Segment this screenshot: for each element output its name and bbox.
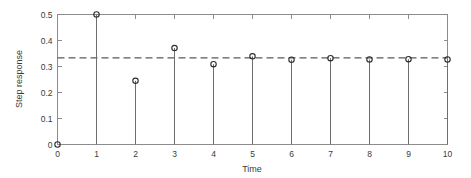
y-axis-title: Step response [14,50,24,108]
x-axis-title: Time [242,164,262,174]
x-tick-label: 10 [443,149,453,159]
x-tick-label: 9 [406,149,411,159]
x-tick-label: 7 [328,149,333,159]
y-tick-label: 0.5 [41,10,53,20]
y-tick-label: 0.3 [41,62,53,72]
x-tick-label: 6 [289,149,294,159]
x-tick-label: 8 [367,149,372,159]
chart-background [0,0,471,178]
y-tick-label: 0.2 [41,88,53,98]
x-tick-label: 1 [94,149,99,159]
x-tick-label: 3 [172,149,177,159]
y-tick-label: 0 [48,140,53,150]
chart-figure: 012345678910 00.10.20.30.40.5 Time Step … [0,0,471,178]
x-tick-label: 4 [211,149,216,159]
y-tick-label: 0.1 [41,114,53,124]
step-response-stem-chart: 012345678910 00.10.20.30.40.5 Time Step … [0,0,471,178]
y-tick-label: 0.4 [41,36,53,46]
x-tick-label: 0 [55,149,60,159]
x-tick-label: 5 [250,149,255,159]
x-tick-label: 2 [133,149,138,159]
